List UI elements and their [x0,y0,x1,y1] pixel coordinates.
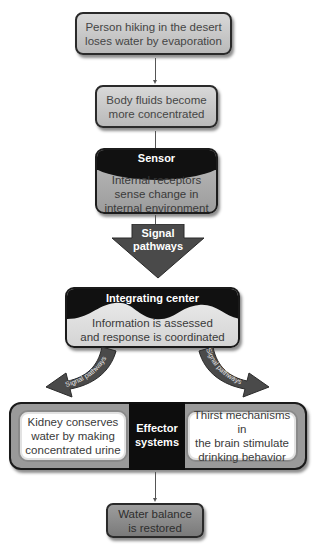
effector-systems-box: Effector systems Kidney conserves water … [9,402,307,470]
stimulus-text-line2: loses water by evaporation [85,34,222,48]
effector-title-line1: Effector [129,421,185,435]
sensor-box: Sensor Internal receptors sense change i… [95,148,218,214]
change-text-line2: more concentrated [109,107,205,121]
arrowhead-icon [153,498,157,502]
sensor-text-line2: sense change in [97,187,216,201]
effector-thirst-box: Thirst mechanisms in the brain stimulate… [186,410,298,462]
thirst-text-line3: drinking behavior [188,450,296,464]
change-box: Body fluids become more concentrated [95,85,218,128]
outcome-text-line2: is restored [128,521,182,535]
signal-pathways-label-line2: pathways [110,240,206,253]
thirst-text-line2: the brain stimulate [188,436,296,450]
effector-kidney-box: Kidney conserves water by making concent… [18,410,128,462]
integrating-center-title: Integrating center [67,292,238,304]
outcome-box: Water balance is restored [106,503,204,538]
effector-title-line2: systems [129,435,185,449]
signal-pathways-right-arrow-icon: Signal pathways [195,345,275,401]
integrating-text-line2: and response is coordinated [67,330,238,344]
stimulus-box: Person hiking in the desert loses water … [75,12,232,55]
connector-1 [155,58,156,82]
signal-pathways-label-line1: Signal [110,227,206,240]
arrowhead-icon [153,80,157,84]
connector-4 [155,472,156,500]
sensor-text-line1: Internal receptors [97,173,216,187]
outcome-text-line1: Water balance [118,507,192,521]
sensor-text-line3: internal environment [97,201,216,214]
kidney-text-line1: Kidney conserves [25,415,120,429]
change-text-line1: Body fluids become [106,93,206,107]
stimulus-text-line1: Person hiking in the desert [85,20,221,34]
kidney-text-line3: concentrated urine [25,443,120,457]
kidney-text-line2: water by making [25,429,120,443]
integrating-text-line1: Information is assessed [67,316,238,330]
connector-2 [155,131,156,148]
signal-pathways-left-arrow-icon: Signal pathways [40,345,120,401]
sensor-title: Sensor [97,152,216,164]
thirst-text-line1: Thirst mechanisms in [188,408,296,436]
integrating-center-box: Integrating center Information is assess… [65,287,240,348]
